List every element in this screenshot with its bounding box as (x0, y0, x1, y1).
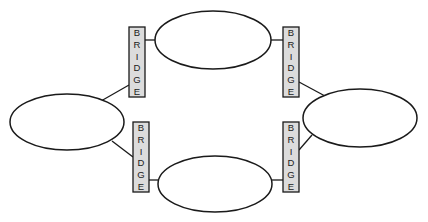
bridge-top-left-letter-b: B (134, 27, 140, 38)
lan-top (155, 11, 271, 69)
bridge-top-right-letter-e: E (288, 86, 294, 97)
lans-layer (10, 11, 417, 212)
bridge-top-right-letter-d: D (288, 62, 295, 73)
bridge-bottom-right-letter-r: R (288, 134, 295, 145)
lan-bottom (158, 156, 272, 212)
bridge-top-left-letter-e: E (134, 86, 140, 97)
bridge-top-right-letter-b: B (288, 27, 294, 38)
bridge-top-left-letter-g: G (133, 74, 140, 85)
lan-top-ellipse (155, 11, 271, 69)
bridge-top-right-letter-g: G (287, 74, 294, 85)
bridge-bottom-left-letter-i: I (140, 146, 143, 157)
link-bridge-bottom-left-to-lan-left (112, 141, 133, 157)
bridge-bottom-right-letter-d: D (288, 157, 295, 168)
bridge-bottom-left-letter-d: D (138, 157, 145, 168)
bridge-top-right-letter-i: I (290, 51, 293, 62)
bridge-bottom-left-letter-e: E (138, 181, 144, 192)
lan-bottom-ellipse (158, 156, 272, 212)
bridge-top-left-letter-r: R (134, 39, 141, 50)
bridge-top-right-letter-r: R (288, 39, 295, 50)
link-bridge-top-right-to-lan-right (299, 82, 325, 96)
bridge-top-left: BRIDGE (129, 27, 145, 97)
bridge-top-right: BRIDGE (283, 27, 299, 97)
bridge-bottom-right-letter-e: E (288, 181, 294, 192)
bridge-bottom-left-letter-g: G (137, 169, 144, 180)
bridge-top-left-letter-i: I (136, 51, 139, 62)
lan-left (10, 94, 124, 150)
bridge-bottom-right-letter-g: G (287, 169, 294, 180)
lan-right (303, 89, 417, 147)
lan-left-ellipse (10, 94, 124, 150)
bridge-bottom-right-letter-i: I (290, 146, 293, 157)
link-bridge-top-left-to-lan-left (101, 85, 129, 101)
lan-right-ellipse (303, 89, 417, 147)
bridge-top-left-letter-d: D (134, 62, 141, 73)
bridge-bottom-right-letter-b: B (288, 122, 294, 133)
bridge-bottom-left-letter-b: B (138, 122, 144, 133)
bridge-bottom-left: BRIDGE (133, 122, 149, 192)
bridge-bottom-right: BRIDGE (283, 122, 299, 192)
link-bridge-bottom-right-to-lan-right (299, 135, 312, 150)
bridge-bottom-left-letter-r: R (138, 134, 145, 145)
bridged-lan-diagram: BRIDGEBRIDGEBRIDGEBRIDGE (0, 0, 428, 222)
